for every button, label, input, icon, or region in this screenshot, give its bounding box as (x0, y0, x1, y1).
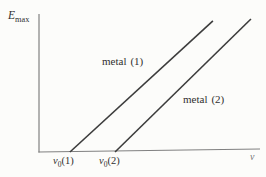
series-line-metal-1 (70, 21, 213, 152)
series-label-metal-2: metal(2) (183, 94, 224, 105)
y-axis-symbol: E (8, 9, 15, 21)
x-axis-label: ν (250, 152, 254, 162)
x-tick-1-paren: (1) (61, 155, 73, 166)
plot-canvas (0, 0, 266, 177)
x-tick-2-paren: (2) (107, 155, 119, 166)
series-line-metal-2 (115, 19, 251, 152)
photoelectric-effect-graph: Emax metal(1) metal(2) ν0(1) ν0(2) ν (0, 0, 266, 177)
series-label-metal-1-paren: (1) (130, 55, 143, 67)
x-tick-label-nu0-1: ν0(1) (53, 156, 74, 169)
series-label-metal-2-word: metal (183, 93, 207, 105)
series-label-metal-1-word: metal (102, 55, 126, 67)
series-label-metal-2-paren: (2) (211, 93, 224, 105)
y-axis-subscript: max (15, 15, 29, 24)
y-axis-label: Emax (8, 10, 29, 25)
series-label-metal-1: metal(1) (102, 56, 143, 67)
x-tick-label-nu0-2: ν0(2) (99, 156, 120, 169)
